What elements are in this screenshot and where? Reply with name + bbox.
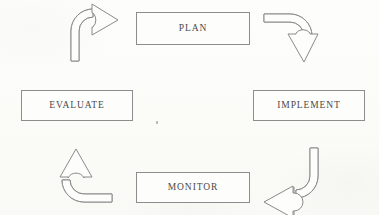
node-box-evaluate: EVALUATE: [21, 90, 133, 121]
page-speck: [156, 121, 158, 124]
diagram-canvas: PLAN IMPLEMENT MONITOR EVALUATE: [0, 0, 379, 215]
node-box-monitor: MONITOR: [136, 172, 250, 203]
arrow-evaluate-to-plan-icon: [66, 4, 122, 64]
arrow-implement-to-monitor-icon: [262, 146, 324, 210]
node-label-implement: IMPLEMENT: [277, 101, 341, 111]
node-label-plan: PLAN: [179, 24, 207, 34]
arrow-plan-to-implement-icon: [262, 4, 320, 68]
node-box-implement: IMPLEMENT: [253, 90, 365, 121]
node-box-plan: PLAN: [136, 12, 250, 45]
arrow-monitor-to-evaluate-icon: [54, 146, 116, 210]
node-label-evaluate: EVALUATE: [49, 101, 105, 111]
node-label-monitor: MONITOR: [168, 183, 218, 193]
